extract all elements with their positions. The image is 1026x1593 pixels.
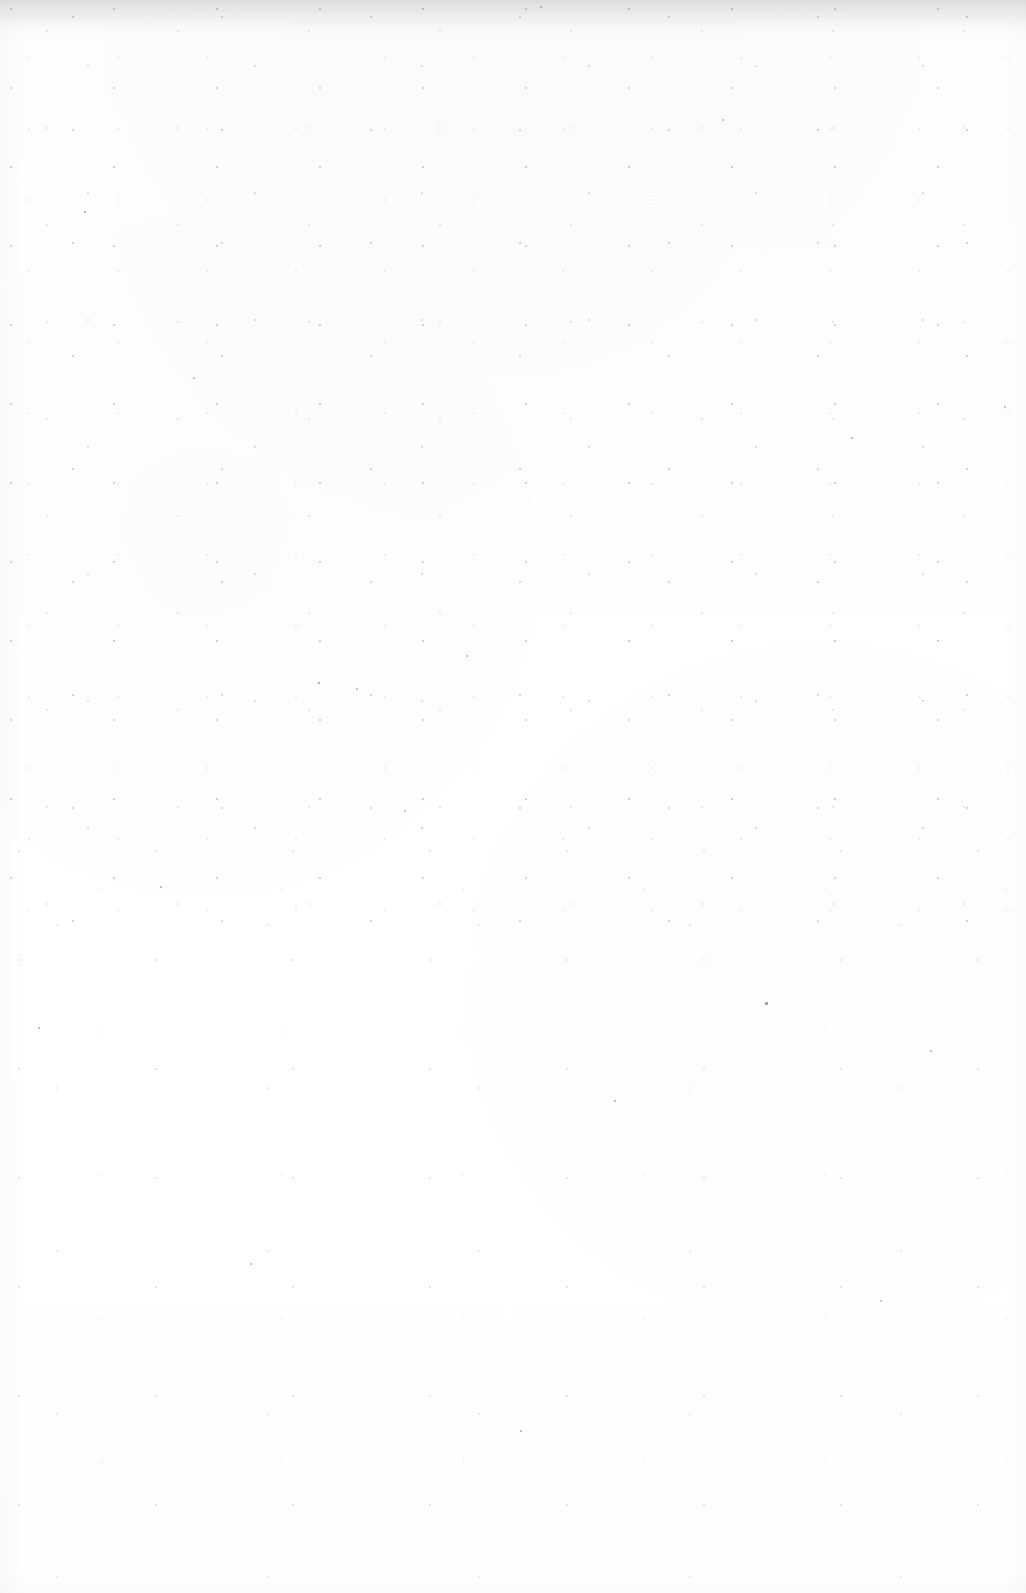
dust-speck bbox=[540, 6, 542, 8]
dust-speck bbox=[84, 211, 86, 213]
scanner-streak-artifact bbox=[0, 0, 1026, 120]
dust-speck bbox=[38, 1027, 40, 1029]
dust-speck bbox=[1004, 406, 1006, 408]
dust-speck bbox=[930, 1050, 932, 1052]
page-content-area bbox=[96, 110, 930, 1490]
scanned-page bbox=[0, 0, 1026, 1593]
